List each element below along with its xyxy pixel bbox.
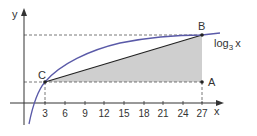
svg-text:3: 3 [42, 108, 48, 119]
svg-text:18: 18 [138, 108, 150, 119]
svg-text:6: 6 [62, 108, 68, 119]
x-axis-label: x [214, 105, 220, 117]
y-axis-label: y [12, 8, 18, 20]
svg-text:21: 21 [157, 108, 169, 119]
x-tick-labels: 3 6 9 12 15 18 21 24 27 [42, 108, 208, 119]
point-b [200, 33, 204, 37]
log-graph: y x C B A log3x 3 6 9 12 15 18 21 24 27 [0, 0, 257, 136]
point-label-c: C [38, 69, 46, 81]
point-label-a: A [208, 76, 216, 88]
y-axis-arrow-icon [21, 8, 27, 16]
svg-text:24: 24 [177, 108, 189, 119]
svg-text:27: 27 [196, 108, 208, 119]
svg-text:9: 9 [82, 108, 88, 119]
svg-text:15: 15 [118, 108, 130, 119]
function-label: log3x [214, 37, 241, 52]
point-a [200, 80, 204, 84]
svg-text:12: 12 [98, 108, 110, 119]
point-label-b: B [198, 20, 205, 32]
